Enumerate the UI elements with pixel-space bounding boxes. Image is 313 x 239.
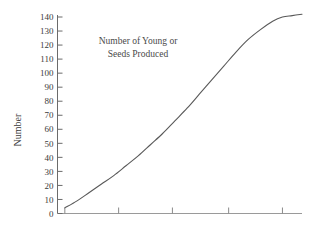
y-axis-tick-labels: 0102030405060708090100110120130140 <box>40 12 54 219</box>
chart-title-line-2: Seeds Produced <box>108 49 169 59</box>
y-axis-tick-label: 0 <box>49 209 54 219</box>
y-axis-tick-label: 20 <box>45 181 55 191</box>
y-axis-tick-label: 120 <box>40 40 54 50</box>
y-axis-title: Number <box>12 113 23 146</box>
chart-container: 0102030405060708090100110120130140 Numbe… <box>0 0 313 239</box>
y-axis-tick-label: 30 <box>45 167 55 177</box>
y-axis-tick-label: 140 <box>40 12 54 22</box>
y-axis-tick-label: 50 <box>45 139 55 149</box>
y-axis-tick-label: 100 <box>40 68 54 78</box>
y-axis-tick-label: 40 <box>45 153 55 163</box>
y-axis-ticks <box>58 17 63 214</box>
chart-plot: 0102030405060708090100110120130140 Numbe… <box>0 0 313 239</box>
y-axis-tick-label: 130 <box>40 26 54 36</box>
y-axis-tick-label: 70 <box>45 110 55 120</box>
y-axis-tick-label: 10 <box>45 195 55 205</box>
x-axis-ticks <box>65 208 283 214</box>
y-axis-tick-label: 60 <box>45 124 55 134</box>
chart-title-line-1: Number of Young or <box>99 36 178 46</box>
y-axis-tick-label: 110 <box>40 54 54 64</box>
y-axis-tick-label: 90 <box>45 82 55 92</box>
y-axis-tick-label: 80 <box>45 96 55 106</box>
